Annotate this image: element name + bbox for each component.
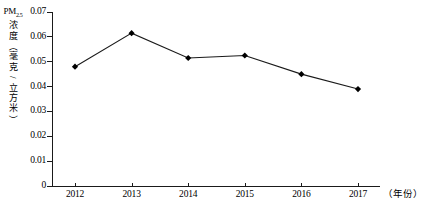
data-point-marker [185,55,191,61]
series-line [75,33,358,89]
pm25-line-chart: PM2.5 浓 度 （ 毫 克 / 立 方 米 ） 00.010.020.030… [0,0,434,210]
data-point-marker [72,64,78,70]
data-point-marker [129,30,135,36]
data-point-marker [242,52,248,58]
plot-area [0,0,434,210]
series-markers [72,30,361,92]
data-point-marker [355,86,361,92]
data-point-marker [298,71,304,77]
